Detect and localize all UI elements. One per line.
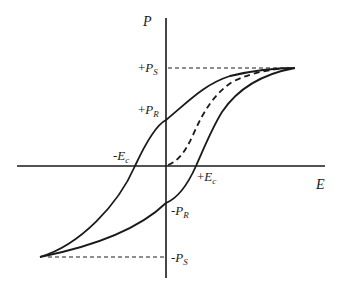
minus-ec-label: -Ec (113, 148, 129, 165)
minus-pr-label: -PR (171, 203, 189, 220)
minus-ps-label: -PS (171, 250, 188, 267)
hysteresis-diagram: P E +PS +PR -Ec +Ec -PR -PS (0, 0, 344, 295)
initial-curve (168, 68, 292, 165)
plus-ps-label: +PS (138, 60, 158, 77)
e-axis-label: E (315, 177, 325, 192)
p-axis-label: P (142, 14, 152, 29)
plus-ec-label: +Ec (197, 169, 216, 186)
plus-pr-label: +PR (138, 102, 159, 119)
upper-branch-curve (40, 68, 295, 257)
lower-branch-curve (40, 68, 295, 257)
